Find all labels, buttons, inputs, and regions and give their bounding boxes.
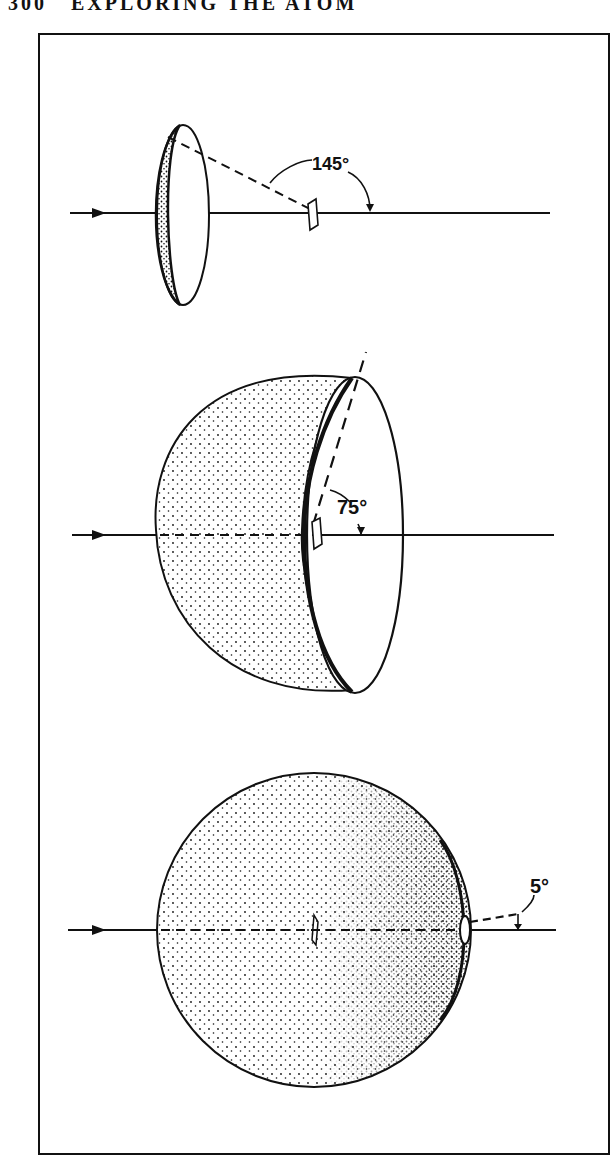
angle-label-5: 5° [530, 875, 549, 897]
detector-window [460, 916, 470, 944]
panel-5: 5° [68, 773, 556, 1087]
target-foil [312, 518, 322, 549]
target-foil [308, 199, 318, 230]
angle-label-75: 75° [337, 496, 367, 518]
scattering-figure: 145° 75° 5° [0, 0, 616, 1166]
angle-label-145: 145° [312, 154, 349, 174]
panel-75: 75° [72, 352, 554, 693]
panel-145: 145° [70, 125, 550, 305]
beam-arrow-icon [92, 208, 106, 218]
